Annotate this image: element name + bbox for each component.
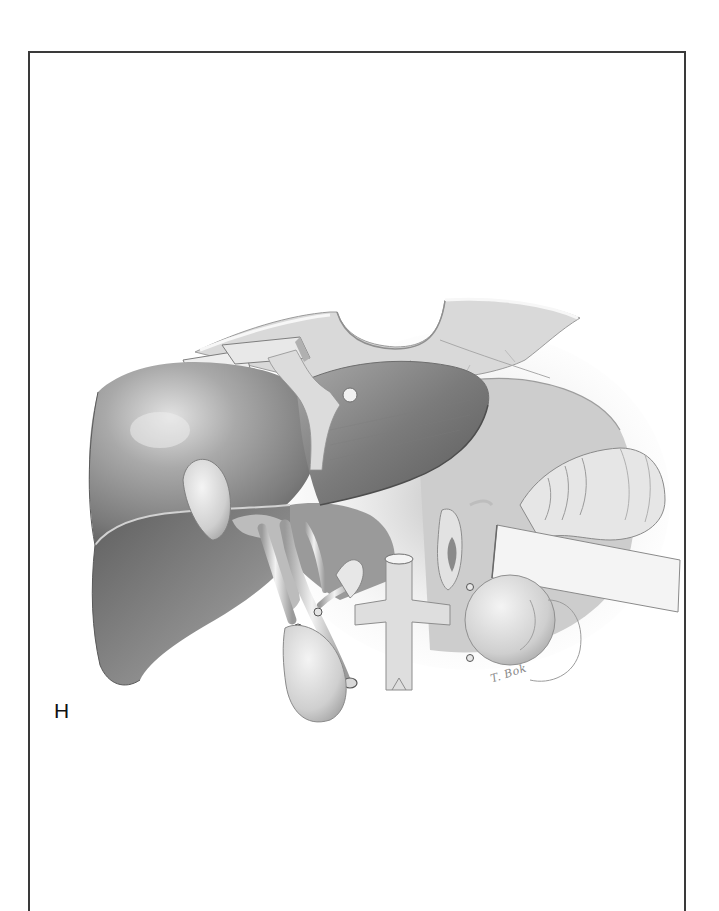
vessel-tie bbox=[314, 608, 322, 616]
ligament-tie bbox=[343, 388, 357, 402]
pancreas-sac bbox=[283, 625, 346, 722]
panel-label: H bbox=[54, 700, 69, 721]
